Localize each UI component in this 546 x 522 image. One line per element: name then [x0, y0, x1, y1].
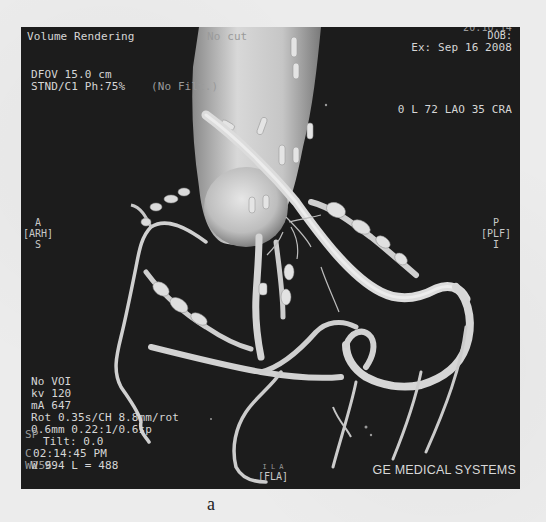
diagonal-branch [151, 347, 341, 378]
orientation-left-top: A [21, 217, 55, 228]
orientation-marker-bottom: I L A [FLA] [253, 463, 293, 482]
orientation-marker-right: P [PLF] I [479, 217, 513, 250]
orientation-marker-left: A [ARH] S [21, 217, 55, 250]
window-level-label: W 994 L = 488 [31, 460, 118, 472]
orientation-left-bottom: S [21, 239, 55, 250]
orientation-right-bottom: I [479, 239, 513, 250]
orientation-right-label: [PLF] [479, 228, 513, 239]
render-mode-label: Volume Rendering [27, 31, 135, 43]
exam-date-label: Ex: Sep 16 2008 [411, 42, 512, 54]
cut-overlay-label: No cut [207, 31, 247, 43]
ct-volume-rendering-viewer: Volume Rendering No cut DFOV 15.0 cm STN… [21, 27, 520, 489]
sp-overlay-label: SP [25, 429, 38, 441]
descending-branch-2 [333, 382, 356, 467]
view-orientation-label: 0 L 72 LAO 35 CRA [398, 104, 512, 116]
orientation-left-label: [ARH] [21, 228, 55, 239]
filter-overlay-label: (No Filt.) [151, 81, 218, 93]
panel-label: a [207, 494, 215, 514]
orientation-bottom-label: [FLA] [253, 471, 293, 482]
central-vessel [256, 237, 261, 357]
right-coronary-artery [116, 223, 206, 442]
orientation-right-top: P [479, 217, 513, 228]
vendor-label: GE MEDICAL SYSTEMS [373, 464, 516, 476]
descending-branch-4 [426, 327, 466, 452]
recon-label: STND/C1 Ph:75% [31, 81, 125, 93]
orientation-bottom-top: I L A [253, 463, 293, 471]
figure-panel-caption: a [0, 494, 546, 515]
